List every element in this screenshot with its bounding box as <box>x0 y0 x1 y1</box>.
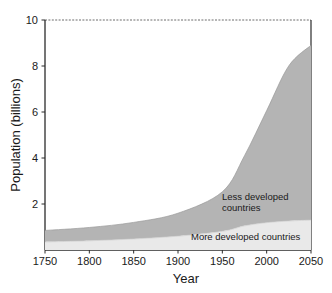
x-tick-label: 2000 <box>254 255 278 267</box>
x-tick-label: 1950 <box>210 255 234 267</box>
more-developed-label: More developed countries <box>191 231 301 242</box>
x-tick-label: 1800 <box>77 255 101 267</box>
y-tick-label: 10 <box>26 14 38 26</box>
y-tick-label: 4 <box>32 152 38 164</box>
less-developed-label-line-2: countries <box>222 202 261 213</box>
x-tick-label: 1900 <box>166 255 190 267</box>
x-tick-label: 1850 <box>121 255 145 267</box>
x-axis-title: Year <box>173 271 200 286</box>
y-tick-label: 8 <box>32 60 38 72</box>
y-tick-label: 6 <box>32 106 38 118</box>
less-developed-label-line-1: Less developed <box>222 191 289 202</box>
x-tick-label: 1750 <box>33 255 57 267</box>
y-axis-title: Population (billions) <box>8 78 23 191</box>
x-tick-label: 2050 <box>299 255 323 267</box>
population-growth-chart: 246810 1750180018501900195020002050 Popu… <box>0 0 332 293</box>
y-tick-label: 2 <box>32 198 38 210</box>
chart-canvas: 246810 1750180018501900195020002050 Popu… <box>0 0 332 293</box>
